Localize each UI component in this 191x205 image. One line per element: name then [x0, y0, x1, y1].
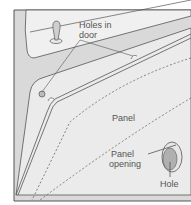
label-holes-in-door-line2: door: [79, 31, 97, 40]
label-hole: Hole: [160, 180, 179, 189]
door-panel-diagram: Holes in door Panel Panel opening Hole: [0, 0, 191, 205]
label-holes-in-door-line1: Holes in: [79, 21, 112, 30]
label-panel-opening-line1: Panel: [111, 150, 134, 159]
label-panel-opening-line2: opening: [109, 160, 141, 169]
label-panel: Panel: [112, 114, 135, 123]
